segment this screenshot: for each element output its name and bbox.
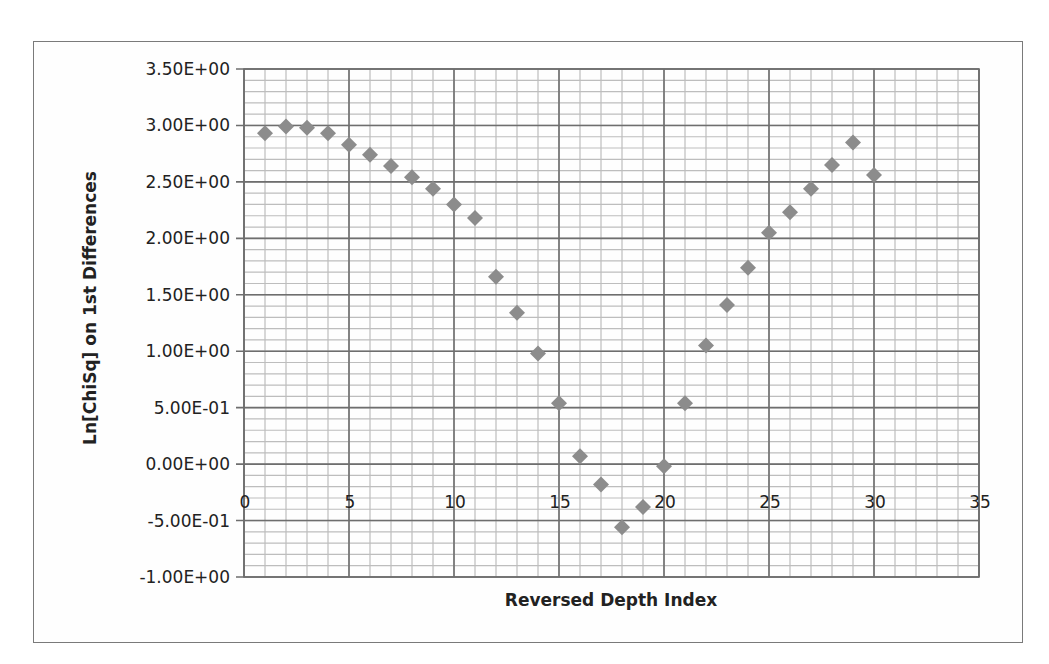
scatter-chart: 3.50E+003.00E+002.50E+002.00E+001.50E+00… [0,0,1049,664]
x-tick-label: 30 [864,492,886,512]
y-tick-label: 2.00E+00 [146,228,230,248]
data-point-diamond [488,269,504,285]
y-tick-label: -1.00E+00 [139,567,230,587]
y-tick-label: -5.00E-01 [148,511,231,531]
data-point-diamond [299,120,315,136]
x-tick-label: 20 [654,492,676,512]
y-tick-label: 3.50E+00 [146,59,230,79]
data-point-diamond [362,147,378,163]
data-point-diamond [341,137,357,153]
y-tick-label: 1.50E+00 [146,285,230,305]
data-point-diamond [656,458,672,474]
y-tick-label: 2.50E+00 [146,172,230,192]
data-point-diamond [803,181,819,197]
data-point-diamond [467,210,483,226]
data-points [257,119,882,536]
data-point-diamond [740,260,756,276]
data-point-diamond [572,448,588,464]
data-point-diamond [551,395,567,411]
data-point-diamond [509,305,525,321]
data-point-diamond [383,158,399,174]
data-point-diamond [278,119,294,135]
data-point-diamond [719,297,735,313]
x-tick-label: 5 [345,492,356,512]
data-point-diamond [446,196,462,212]
data-point-diamond [257,125,273,141]
y-axis-title: Ln[ChiSq] on 1st Differences [80,171,100,445]
x-tick-label: 35 [969,492,991,512]
y-tick-label: 1.00E+00 [146,341,230,361]
data-point-diamond [593,476,609,492]
data-point-diamond [404,169,420,185]
x-tick-label: 0 [240,492,251,512]
y-axis-tick-labels: 3.50E+003.00E+002.50E+002.00E+001.50E+00… [139,59,230,587]
x-axis-title: Reversed Depth Index [505,590,717,610]
data-point-diamond [677,395,693,411]
data-point-diamond [866,167,882,183]
x-tick-label: 15 [549,492,571,512]
data-point-diamond [425,181,441,197]
y-tick-label: 0.00E+00 [146,454,230,474]
data-point-diamond [782,204,798,220]
data-point-diamond [614,519,630,535]
y-tick-label: 3.00E+00 [146,115,230,135]
x-tick-label: 25 [759,492,781,512]
x-tick-label: 10 [444,492,466,512]
data-point-diamond [320,125,336,141]
data-point-diamond [530,345,546,361]
data-point-diamond [635,499,651,515]
y-tick-label: 5.00E-01 [154,398,230,418]
